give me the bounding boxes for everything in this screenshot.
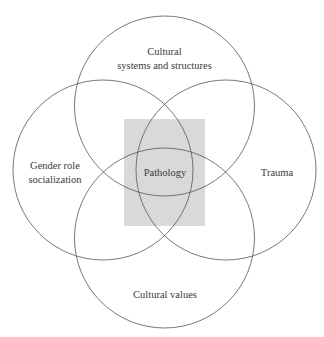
label-left-line2: socialization [28,174,82,185]
label-left-line1: Gender role [30,160,80,171]
label-right: Trauma [261,167,294,178]
label-top-line2: systems and structures [117,60,212,71]
label-center: Pathology [144,167,187,178]
venn-diagram: Cultural systems and structures Gender r… [0,0,324,337]
label-bottom: Cultural values [133,289,197,300]
label-top-line1: Cultural [147,46,181,57]
